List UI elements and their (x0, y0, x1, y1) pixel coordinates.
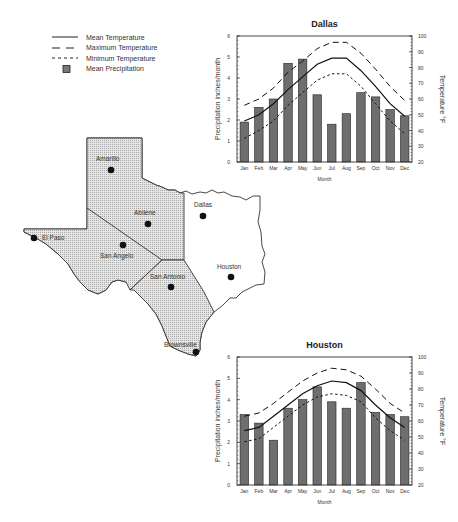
x-axis-label: Month (318, 499, 332, 505)
x-tick-label: Nov (386, 165, 395, 171)
y2-tick-label: 60 (418, 96, 424, 102)
x-tick-label: Feb (255, 165, 264, 171)
minimum-temperature-line (244, 74, 404, 139)
y2-tick-label: 90 (418, 370, 424, 376)
y-tick-label: 4 (227, 397, 230, 403)
y-axis-label: Precipitation inches/month (214, 58, 222, 140)
city-label: El Paso (42, 234, 64, 241)
city-label: Abilene (134, 209, 156, 216)
y2-tick-label: 60 (418, 418, 424, 424)
precip-bar (284, 63, 292, 162)
precip-bar (240, 415, 248, 485)
x-tick-label: Jan (240, 165, 248, 171)
city-label: Amarillo (96, 155, 119, 162)
precip-bar (328, 124, 336, 162)
y-tick-label: 6 (227, 33, 230, 39)
maximum-temperature-line (244, 42, 404, 105)
x-tick-label: Aug (342, 165, 351, 171)
x-tick-label: Sep (357, 488, 366, 494)
precip-bar (269, 440, 277, 485)
precip-bar (342, 408, 350, 485)
x-tick-label: Sep (357, 165, 366, 171)
x-tick-label: Oct (372, 165, 380, 171)
y2-tick-label: 20 (418, 482, 424, 488)
city-label: Brownsville (164, 341, 197, 348)
precip-bar (313, 387, 321, 485)
x-axis-label: Month (318, 176, 332, 182)
precip-bar (342, 114, 350, 162)
y-tick-label: 6 (227, 354, 230, 360)
x-tick-label: Dec (400, 488, 409, 494)
x-tick-label: Aug (342, 488, 351, 494)
x-tick-label: Jul (329, 165, 335, 171)
y-axis-label: Precipitation inches/month (214, 380, 222, 462)
y-tick-label: 3 (227, 96, 230, 102)
precip-bar (400, 116, 408, 162)
charts-layer: 01234562030405060708090100JanFebMarAprMa… (0, 0, 458, 522)
chart-dallas: 01234562030405060708090100JanFebMarAprMa… (214, 33, 446, 182)
precip-bar (386, 415, 394, 485)
precip-bar (357, 93, 365, 162)
y2-tick-label: 30 (418, 466, 424, 472)
city-label: Dallas (194, 201, 212, 208)
y-tick-label: 5 (227, 375, 230, 381)
mean-temperature-line (244, 381, 404, 431)
y2-axis-label: Temperature °F (438, 397, 446, 445)
x-tick-label: Mar (269, 165, 278, 171)
y2-tick-label: 90 (418, 49, 424, 55)
y2-tick-label: 80 (418, 65, 424, 71)
y2-tick-label: 40 (418, 128, 424, 134)
y2-tick-label: 30 (418, 143, 424, 149)
y2-tick-label: 70 (418, 80, 424, 86)
x-tick-label: May (298, 165, 308, 171)
mean-temperature-line (244, 58, 404, 121)
y2-tick-label: 70 (418, 402, 424, 408)
y-tick-label: 3 (227, 418, 230, 424)
city-label: Houston (217, 263, 241, 270)
y2-tick-label: 100 (418, 354, 427, 360)
y2-tick-label: 100 (418, 33, 427, 39)
x-tick-label: May (298, 488, 308, 494)
y-tick-label: 0 (227, 159, 230, 165)
y2-tick-label: 40 (418, 450, 424, 456)
x-tick-label: Dec (400, 165, 409, 171)
y2-tick-label: 20 (418, 159, 424, 165)
city-label: San Angelo (100, 252, 133, 259)
x-tick-label: Feb (255, 488, 264, 494)
x-tick-label: Apr (284, 165, 292, 171)
chart-houston: 01234562030405060708090100JanFebMarAprMa… (214, 354, 446, 505)
precip-bar (269, 99, 277, 162)
city-label: San Antonio (150, 273, 185, 280)
y-tick-label: 4 (227, 75, 230, 81)
x-tick-label: Jun (313, 165, 321, 171)
y2-axis-label: Temperature °F (438, 75, 446, 123)
y2-tick-label: 50 (418, 434, 424, 440)
precip-bar (328, 402, 336, 485)
climate-figure: Mean Temperature Maximum Temperature Min… (0, 0, 458, 522)
precip-bar (313, 95, 321, 162)
x-tick-label: Nov (386, 488, 395, 494)
precip-bar (240, 122, 248, 162)
x-tick-label: Mar (269, 488, 278, 494)
precip-bar (357, 383, 365, 485)
y2-tick-label: 80 (418, 386, 424, 392)
precip-bar (298, 400, 306, 485)
x-tick-label: Jul (329, 488, 335, 494)
y-tick-label: 2 (227, 439, 230, 445)
precip-bar (255, 423, 263, 485)
y-tick-label: 5 (227, 54, 230, 60)
precip-bar (284, 408, 292, 485)
y-tick-label: 1 (227, 461, 230, 467)
y2-tick-label: 50 (418, 112, 424, 118)
y-tick-label: 0 (227, 482, 230, 488)
precip-bar (386, 110, 394, 163)
x-tick-label: Jun (313, 488, 321, 494)
x-tick-label: Jan (240, 488, 248, 494)
x-tick-label: Oct (372, 488, 380, 494)
precip-bar (371, 412, 379, 485)
y-tick-label: 2 (227, 117, 230, 123)
x-tick-label: Apr (284, 488, 292, 494)
y-tick-label: 1 (227, 138, 230, 144)
minimum-temperature-line (244, 394, 404, 442)
